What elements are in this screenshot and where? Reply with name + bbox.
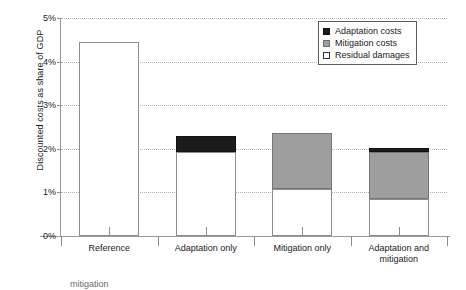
x-minor-tick [109,227,110,236]
y-tick-mark [57,62,61,63]
bar-segment-mitigation [369,152,429,199]
chart-legend: Adaptation costs Mitigation costs Residu… [318,21,417,65]
bar-segment-adaptation [369,148,429,152]
y-tick-mark [57,105,61,106]
y-tick-label: 1% [43,187,56,197]
y-tick-label: 5% [43,13,56,23]
x-axis-line [40,236,450,237]
y-tick-mark [57,18,61,19]
gridline [61,18,447,19]
bar-adaptation-only[interactable] [176,136,236,236]
x-category-separator [158,236,159,246]
y-tick-label: 2% [43,144,56,154]
figure-bar-chart: Discounted costs as share of GDP 0%1%2%3… [0,0,466,290]
x-category-separator [447,236,448,246]
legend-label: Mitigation costs [335,38,397,48]
y-tick-mark [57,149,61,150]
x-category-separator [351,236,352,246]
y-tick-label: 4% [43,57,56,67]
legend-label: Adaptation costs [335,26,402,36]
bar-adaptation-and-mitigation[interactable] [369,148,429,236]
legend-swatch-mitigation-costs [323,40,330,47]
y-tick-label: 3% [43,100,56,110]
bar-reference[interactable] [79,42,139,236]
bar-segment-residual [79,42,139,236]
x-category-separator [254,236,255,246]
bar-segment-adaptation [176,136,236,152]
x-minor-tick [399,227,400,236]
legend-swatch-residual-damages [323,52,330,59]
figure-caption: mitigation [70,279,460,290]
x-tick-label: Reference [61,243,158,254]
x-tick-label: Adaptation only [158,243,255,254]
legend-swatch-adaptation-costs [323,28,330,35]
legend-item: Residual damages [323,49,410,61]
bar-segment-residual [176,152,236,236]
x-tick-label: Adaptation and mitigation [351,243,448,265]
bar-mitigation-only[interactable] [272,133,332,236]
y-tick-mark [57,192,61,193]
bar-segment-mitigation [272,133,332,189]
x-minor-tick [206,227,207,236]
legend-item: Adaptation costs [323,25,410,37]
x-minor-tick [302,227,303,236]
x-tick-label: Mitigation only [254,243,351,254]
legend-label: Residual damages [335,50,410,60]
x-category-separator [61,236,62,246]
legend-item: Mitigation costs [323,37,410,49]
y-tick-label: 0% [43,231,56,241]
